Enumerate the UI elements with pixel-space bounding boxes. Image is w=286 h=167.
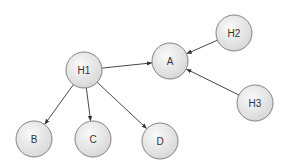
node-d: D [142,123,178,159]
node-c: C [75,121,111,157]
node-h1: H1 [66,52,102,88]
node-label: B [31,134,38,145]
edge-h3-to-a [187,69,239,95]
node-label: H2 [228,28,241,39]
edge-h1-to-d [97,82,146,128]
node-h3: H3 [237,85,273,121]
graph-diagram: H1AH2H3BCD [0,0,286,167]
node-label: A [167,56,174,67]
edge-h1-to-b [45,85,74,124]
edge-h1-to-c [86,88,90,121]
node-a: A [152,43,188,79]
node-b: B [16,121,52,157]
node-h2: H2 [216,15,252,51]
nodes-layer: H1AH2H3BCD [16,15,273,159]
edge-h1-to-a [102,63,152,68]
node-label: C [89,134,96,145]
node-label: D [156,136,163,147]
edge-h2-to-a [187,40,218,53]
node-label: H3 [249,98,262,109]
node-label: H1 [78,65,91,76]
